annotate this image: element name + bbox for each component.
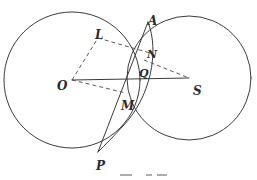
caption-fragment bbox=[157, 174, 167, 176]
point-label-q: Q bbox=[139, 68, 149, 79]
point-label-o: O bbox=[57, 80, 67, 92]
axis-segment-o-s bbox=[72, 78, 189, 80]
dashed-segment-o-m bbox=[72, 80, 126, 93]
point-label-n: N bbox=[147, 49, 157, 60]
arc-through-a-q-p bbox=[98, 22, 153, 152]
point-label-s: S bbox=[193, 85, 202, 97]
caption-remnant-strip bbox=[0, 168, 257, 180]
figure-canvas bbox=[0, 0, 257, 180]
point-label-a: A bbox=[148, 15, 157, 27]
caption-fragment bbox=[146, 174, 152, 176]
point-label-l: L bbox=[95, 29, 103, 41]
dashed-segment-l-n bbox=[98, 38, 150, 53]
point-label-m: M bbox=[121, 100, 134, 112]
dashed-segment-o-l bbox=[72, 38, 98, 80]
chord-segment-a-p bbox=[98, 22, 148, 152]
dashed-segment-n-s bbox=[144, 60, 189, 78]
caption-fragment bbox=[120, 174, 132, 176]
geometry-figure: O S A L N Q M P bbox=[0, 0, 257, 180]
